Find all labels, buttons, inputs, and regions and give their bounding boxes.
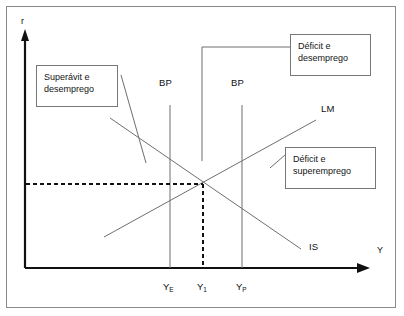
tick-label-y1-sub: 1	[203, 286, 207, 293]
curve-label-bp-right: BP	[231, 77, 244, 88]
tick-label-ye: YE	[163, 281, 174, 292]
curve-label-lm: LM	[321, 103, 335, 114]
callout-deficit-desemprego: Déficit e desemprego	[290, 34, 371, 76]
callout-deficit-superemprego: Déficit e superemprego	[285, 147, 376, 189]
tick-label-y1: Y1	[197, 281, 207, 292]
leader-line-superavit	[121, 75, 146, 163]
tick-label-ye-sub: E	[169, 286, 173, 293]
figure-root: r Y BP BP LM IS YE Y1 YP Superávit e des…	[0, 0, 404, 316]
curve-label-is: IS	[309, 241, 318, 252]
curve-label-bp-left: BP	[159, 77, 172, 88]
y-axis-label: r	[21, 17, 24, 26]
leader-line-deficit-desemprego	[202, 47, 290, 161]
callout-superavit-desemprego: Superávit e desemprego	[36, 65, 118, 107]
x-axis-label: Y	[377, 246, 383, 255]
x-axis	[25, 263, 370, 273]
leader-line-deficit-superemprego	[270, 155, 285, 168]
tick-label-yp: YP	[236, 281, 247, 292]
tick-label-yp-sub: P	[242, 286, 246, 293]
y-axis	[21, 29, 29, 268]
